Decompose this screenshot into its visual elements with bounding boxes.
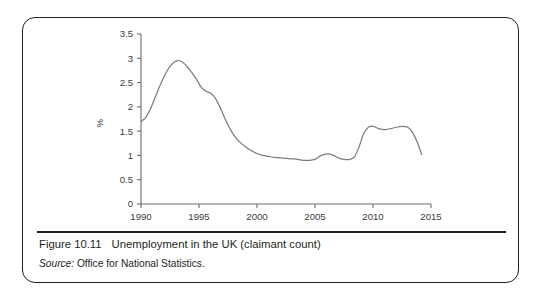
- y-axis-ticks: 00.511.522.533.5: [120, 28, 141, 209]
- figure-caption: Figure 10.11Unemployment in the UK (clai…: [39, 237, 505, 252]
- figure-panel: 00.511.522.533.5 % 199019952000200520102…: [22, 17, 519, 283]
- figure-source: Source: Office for National Statistics.: [39, 257, 505, 271]
- y-tick-label: 2.5: [120, 77, 133, 88]
- y-tick-label: 2: [128, 101, 133, 112]
- source-text: Office for National Statistics.: [74, 258, 205, 269]
- x-axis: 199019952000200520102015: [130, 204, 441, 222]
- y-tick-label: 0: [128, 198, 133, 209]
- x-axis-ticks: 199019952000200520102015: [130, 204, 441, 222]
- figure-title: Unemployment in the UK (claimant count): [112, 238, 321, 250]
- y-axis-label: %: [95, 119, 105, 127]
- caption-divider: [37, 231, 506, 233]
- series-line: [141, 61, 422, 161]
- x-tick-label: 2005: [304, 211, 325, 222]
- y-tick-label: 0.5: [120, 174, 133, 185]
- unemployment-line-chart: 00.511.522.533.5 % 199019952000200520102…: [23, 18, 520, 226]
- y-tick-label: 1.5: [120, 126, 133, 137]
- chart-plot-area: 00.511.522.533.5 % 199019952000200520102…: [23, 18, 520, 226]
- y-tick-label: 3.5: [120, 28, 133, 39]
- y-tick-label: 3: [128, 53, 133, 64]
- y-tick-label: 1: [128, 150, 133, 161]
- caption-block: Figure 10.11Unemployment in the UK (clai…: [39, 237, 505, 271]
- y-axis: 00.511.522.533.5 %: [95, 28, 141, 209]
- x-tick-label: 2000: [246, 211, 267, 222]
- x-tick-label: 2010: [362, 211, 383, 222]
- figure-number: Figure 10.11: [39, 238, 102, 250]
- x-tick-label: 2015: [420, 211, 441, 222]
- x-tick-label: 1995: [188, 211, 209, 222]
- x-tick-label: 1990: [130, 211, 151, 222]
- chart-series-group: [141, 61, 422, 161]
- source-label: Source:: [39, 258, 74, 269]
